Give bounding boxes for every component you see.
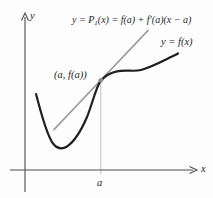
diagram-canvas	[0, 0, 213, 198]
x-axis-label: x	[201, 163, 206, 175]
tangent-formula-prefix: y = P	[72, 14, 94, 25]
y-axis-label: y	[30, 10, 35, 22]
tangency-point-label: (a, f(a))	[54, 69, 87, 81]
function-curve	[36, 54, 178, 149]
a-tick-label: a	[97, 177, 102, 189]
tangent-formula-label: y = P1(x) = f(a) + f′(a)(x − a)	[72, 14, 191, 27]
linear-approximation-diagram: y = P1(x) = f(a) + f′(a)(x − a) y = f(x)…	[0, 0, 213, 198]
curve-label: y = f(x)	[161, 36, 193, 48]
tangency-point-dot	[98, 78, 103, 83]
tangent-formula-suffix: (x) = f(a) + f′(a)(x − a)	[98, 14, 192, 25]
